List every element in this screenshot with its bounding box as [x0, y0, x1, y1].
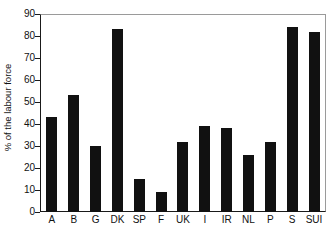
y-tick-mark	[35, 36, 40, 37]
x-tick-label: NL	[242, 215, 255, 225]
x-slot: F	[150, 215, 172, 231]
y-tick-mark	[35, 80, 40, 81]
y-tick-mark	[35, 212, 40, 213]
y-tick-label: 70	[24, 53, 35, 63]
bar-slot	[128, 15, 150, 212]
x-slot: SP	[128, 215, 150, 231]
bar-slot	[194, 15, 216, 212]
y-tick-label: 90	[24, 9, 35, 19]
x-axis-tick-labels: ABGDKSPFUKIIRNLPSSUI	[41, 215, 325, 231]
x-slot: DK	[107, 215, 129, 231]
bar	[156, 192, 167, 212]
x-tick-label: A	[49, 215, 56, 225]
y-tick-label: 30	[24, 141, 35, 151]
bar	[134, 179, 145, 212]
bar-slot	[172, 15, 194, 212]
y-tick-mark	[35, 190, 40, 191]
bar-slot	[238, 15, 260, 212]
x-slot: P	[259, 215, 281, 231]
bar	[243, 155, 254, 212]
x-tick-label: S	[289, 215, 296, 225]
x-tick-label: UK	[176, 215, 190, 225]
bar	[90, 146, 101, 212]
bar	[46, 117, 57, 212]
x-tick-label: SUI	[306, 215, 323, 225]
bar	[199, 126, 210, 212]
bar-chart: % of the labour force 010203040506070809…	[0, 0, 333, 243]
y-tick-mark	[35, 146, 40, 147]
bar-slot	[216, 15, 238, 212]
bar-slot	[281, 15, 303, 212]
y-tick-label: 10	[24, 185, 35, 195]
x-slot: NL	[238, 215, 260, 231]
x-slot: G	[85, 215, 107, 231]
y-tick-mark	[35, 124, 40, 125]
bar	[309, 32, 320, 212]
x-tick-label: P	[267, 215, 274, 225]
bar-slot	[107, 15, 129, 212]
bar	[287, 27, 298, 212]
y-axis-tick-labels: 0102030405060708090	[16, 14, 38, 212]
x-tick-label: DK	[111, 215, 125, 225]
bar	[265, 142, 276, 212]
bar-slot	[41, 15, 63, 212]
y-axis-title-text: % of the labour force	[3, 64, 14, 152]
bar-slot	[303, 15, 325, 212]
x-slot: I	[194, 215, 216, 231]
y-tick-label: 60	[24, 75, 35, 85]
bar	[68, 95, 79, 212]
bar-slot	[150, 15, 172, 212]
x-slot: UK	[172, 215, 194, 231]
bar-slot	[259, 15, 281, 212]
y-axis-title: % of the labour force	[0, 0, 16, 215]
y-tick-mark	[35, 14, 40, 15]
x-slot: A	[41, 215, 63, 231]
bar-slot	[63, 15, 85, 212]
x-slot: S	[281, 215, 303, 231]
y-tick-mark	[35, 168, 40, 169]
x-slot: IR	[216, 215, 238, 231]
bar	[112, 29, 123, 212]
x-tick-label: G	[92, 215, 100, 225]
y-tick-mark	[35, 102, 40, 103]
y-tick-label: 20	[24, 163, 35, 173]
x-slot: SUI	[303, 215, 325, 231]
x-tick-label: F	[158, 215, 164, 225]
x-slot: B	[63, 215, 85, 231]
y-tick-label: 50	[24, 97, 35, 107]
x-tick-label: IR	[222, 215, 232, 225]
x-tick-label: B	[70, 215, 77, 225]
bar	[221, 128, 232, 212]
bar	[177, 142, 188, 212]
y-tick-label: 40	[24, 119, 35, 129]
bar-slot	[85, 15, 107, 212]
x-tick-label: SP	[133, 215, 146, 225]
x-tick-label: I	[203, 215, 206, 225]
y-tick-mark	[35, 58, 40, 59]
bars-container	[41, 15, 325, 212]
y-tick-label: 80	[24, 31, 35, 41]
